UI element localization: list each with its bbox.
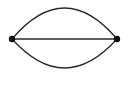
node-right [114, 36, 120, 42]
edge-bottom-arc [12, 39, 117, 68]
edge-top-arc [12, 8, 117, 39]
theta-graph-diagram [0, 0, 129, 86]
node-left [9, 36, 15, 42]
